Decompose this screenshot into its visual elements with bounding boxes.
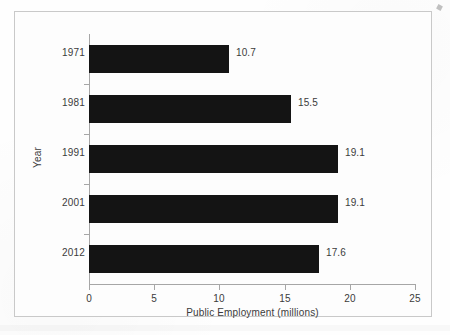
- x-tick-label-15: 15: [270, 293, 300, 304]
- scanned-page-background: 19711981199120012012 0510152025 Public E…: [0, 0, 450, 335]
- x-tick-mark-5: [154, 285, 155, 290]
- chart-frame: 19711981199120012012 0510152025 Public E…: [14, 11, 432, 317]
- x-tick-label-10: 10: [204, 293, 234, 304]
- bar-row: [89, 184, 415, 234]
- bar-value-label-1971: 10.7: [236, 47, 256, 58]
- x-tick-label-5: 5: [139, 293, 169, 304]
- category-tick: [84, 84, 89, 85]
- x-tick-mark-25: [415, 285, 416, 290]
- category-label-1971: 1971: [45, 47, 85, 58]
- x-tick-mark-0: [89, 285, 90, 290]
- scan-speck-artifact: [436, 4, 443, 11]
- x-tick-label-25: 25: [400, 293, 430, 304]
- x-tick-label-20: 20: [335, 293, 365, 304]
- x-tick-mark-10: [219, 285, 220, 290]
- scan-edge-band: [0, 325, 450, 331]
- bar-row: [89, 134, 415, 184]
- bar-value-label-2012: 17.6: [326, 247, 346, 258]
- bar-1971[interactable]: [89, 45, 229, 73]
- category-tick: [84, 184, 89, 185]
- category-label-1981: 1981: [45, 97, 85, 108]
- bar-2012[interactable]: [89, 245, 319, 273]
- y-axis-title: Year: [32, 128, 43, 188]
- bar-1981[interactable]: [89, 95, 291, 123]
- bar-row: [89, 34, 415, 84]
- x-tick-mark-15: [285, 285, 286, 290]
- x-axis-line: [89, 284, 416, 285]
- bar-row: [89, 234, 415, 284]
- plot-area: [89, 34, 415, 284]
- bar-1991[interactable]: [89, 145, 338, 173]
- bar-value-label-1981: 15.5: [298, 97, 318, 108]
- x-tick-label-0: 0: [74, 293, 104, 304]
- category-tick: [84, 234, 89, 235]
- category-label-2001: 2001: [45, 197, 85, 208]
- x-axis-title: Public Employment (millions): [89, 307, 416, 318]
- bar-value-label-1991: 19.1: [345, 147, 365, 158]
- category-tick: [84, 134, 89, 135]
- bar-2001[interactable]: [89, 195, 338, 223]
- x-tick-mark-20: [350, 285, 351, 290]
- bar-value-label-2001: 19.1: [345, 197, 365, 208]
- category-label-1991: 1991: [45, 147, 85, 158]
- bar-row: [89, 84, 415, 134]
- category-label-2012: 2012: [45, 247, 85, 258]
